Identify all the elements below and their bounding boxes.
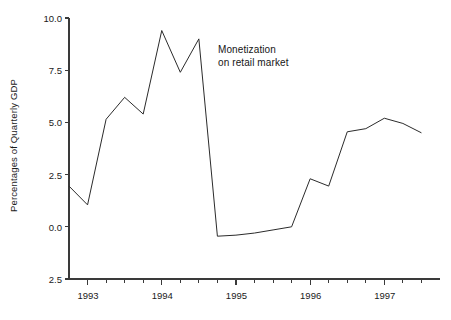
annotation-line-1: Monetization <box>218 44 289 57</box>
annotation-line-2: on retail market <box>218 57 289 70</box>
y-tick-label-4: 0.0 <box>24 221 62 232</box>
chart-figure: Percentages of Quarterly GDP 10.07.55.02… <box>0 0 451 320</box>
y-tick-label-0: 10.0 <box>24 13 62 24</box>
series-annotation: Monetizationon retail market <box>218 44 289 69</box>
x-tick-label-4: 1997 <box>374 290 395 301</box>
x-tick-label-2: 1995 <box>226 290 247 301</box>
y-tick-label-3: 2.5 <box>24 169 62 180</box>
x-tick-label-0: 1993 <box>77 290 98 301</box>
y-tick-label-5: 2.5 <box>24 274 62 285</box>
y-tick-label-1: 7.5 <box>24 65 62 76</box>
x-tick-label-1: 1994 <box>152 290 173 301</box>
y-tick-label-2: 5.0 <box>24 117 62 128</box>
x-tick-label-3: 1996 <box>300 290 321 301</box>
